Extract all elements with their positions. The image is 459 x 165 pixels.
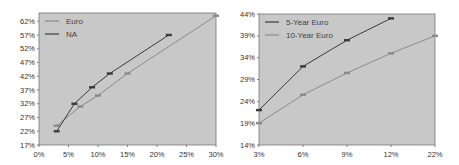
data-marker [256,109,262,111]
line-chart-euro-tenor: 14%19%24%29%34%39%44%3%6%9%12%22%5-Year … [229,0,459,165]
y-tick-label: 17% [20,141,35,150]
y-tick-label: 44% [240,10,255,19]
data-marker [344,39,350,41]
y-tick-label: 34% [240,53,255,62]
data-marker [107,72,113,74]
x-tick-label: 22% [427,150,442,159]
y-tick-label: 47% [20,58,35,67]
data-marker [166,34,172,36]
x-tick-label: 0% [34,150,45,159]
data-marker [388,17,394,19]
data-marker [432,35,438,37]
chart-left: 17%22%27%32%37%42%47%52%57%62%0%5%10%15%… [0,0,230,165]
x-tick-label: 5% [63,150,74,159]
data-marker [95,94,101,96]
line-chart-euro-na: 17%22%27%32%37%42%47%52%57%62%0%5%10%15%… [0,0,230,165]
y-tick-label: 29% [240,75,255,84]
y-tick-label: 57% [20,31,35,40]
x-tick-label: 25% [179,150,194,159]
x-tick-label: 6% [298,150,309,159]
y-tick-label: 62% [20,17,35,26]
data-marker [89,86,95,88]
legend-label: 10-Year Euro [286,31,333,40]
x-tick-label: 3% [254,150,265,159]
y-tick-label: 37% [20,86,35,95]
y-tick-label: 42% [20,72,35,81]
data-marker [300,94,306,96]
data-marker [256,122,262,124]
data-marker [71,103,77,105]
data-marker [77,105,83,107]
data-marker [213,15,219,17]
x-tick-label: 9% [342,150,353,159]
y-tick-label: 22% [20,127,35,136]
data-marker [388,52,394,54]
data-marker [54,125,60,127]
y-tick-label: 24% [240,97,255,106]
legend-label: 5-Year Euro [286,18,329,27]
data-marker [344,72,350,74]
x-tick-label: 12% [383,150,398,159]
chart-right: 14%19%24%29%34%39%44%3%6%9%12%22%5-Year … [229,0,459,165]
legend-label: Euro [66,17,83,26]
y-tick-label: 39% [240,31,255,40]
y-tick-label: 27% [20,113,35,122]
y-tick-label: 32% [20,99,35,108]
data-marker [300,65,306,67]
data-marker [125,72,131,74]
legend-label: NA [66,30,78,39]
x-tick-label: 10% [90,150,105,159]
data-marker [54,130,60,132]
x-tick-label: 20% [149,150,164,159]
y-tick-label: 52% [20,44,35,53]
x-tick-label: 15% [120,150,135,159]
y-tick-label: 14% [240,141,255,150]
y-tick-label: 19% [240,119,255,128]
x-tick-label: 30% [208,150,223,159]
